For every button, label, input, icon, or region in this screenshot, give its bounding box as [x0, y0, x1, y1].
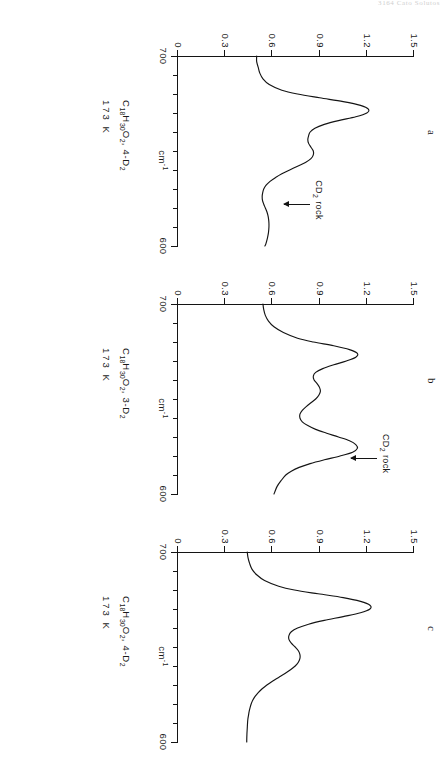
spectrum-trace-panel-c — [247, 552, 371, 742]
x-major-tick — [171, 56, 178, 57]
x-minor-tick — [173, 704, 178, 705]
x-minor-tick — [173, 628, 178, 629]
y-tick-label: 1.2 — [361, 530, 372, 544]
panel-b: b 1.51.20.90.60.30 700600cm-1 C18H30O2, … — [30, 262, 422, 498]
x-minor-tick — [173, 151, 178, 152]
panel-b-annotation-cd2-rock: CD2 rock — [379, 434, 391, 474]
x-minor-tick — [173, 170, 178, 171]
y-tick-label: 0.6 — [267, 282, 278, 296]
x-minor-tick — [173, 94, 178, 95]
x-minor-tick — [173, 342, 178, 343]
y-tick-label: 0 — [173, 290, 184, 296]
x-minor-tick — [173, 189, 178, 190]
y-tick-label: 0 — [173, 42, 184, 48]
y-tick-label: 0.9 — [314, 34, 325, 48]
y-tick-label: 0 — [173, 538, 184, 544]
y-tick-label: 1.5 — [409, 530, 420, 544]
x-minor-tick — [173, 456, 178, 457]
x-minor-tick — [173, 475, 178, 476]
panel-letter-c: c — [426, 626, 438, 631]
x-minor-tick — [173, 437, 178, 438]
panel-a-temperature: 173 K — [98, 100, 114, 171]
panel-b-temperature: 173 K — [98, 348, 114, 419]
plot-area-panel-a — [178, 56, 414, 246]
x-axis-title: cm-1 — [157, 398, 169, 419]
x-tick-label: 600 — [158, 485, 169, 502]
panel-a: a 1.51.20.90.60.30 700600cm-1 C18H30O2, … — [30, 14, 422, 250]
y-tick-label: 0.3 — [220, 530, 231, 544]
x-axis-panel-a: 700600cm-1 — [177, 56, 178, 246]
x-major-tick — [171, 742, 178, 743]
plot-area-panel-c — [178, 552, 414, 742]
panel-letter-b: b — [426, 378, 438, 384]
panel-a-formula: C18H30O2, 4-D2 — [121, 100, 132, 171]
x-major-tick — [171, 304, 178, 305]
y-tick-label: 0.3 — [220, 34, 231, 48]
panel-c-temperature: 173 K — [98, 596, 114, 667]
x-minor-tick — [173, 571, 178, 572]
trace-svg-panel-a — [178, 56, 414, 246]
x-major-tick — [171, 552, 178, 553]
panel-letter-a: a — [426, 130, 438, 135]
x-minor-tick — [173, 113, 178, 114]
y-tick-label: 1.5 — [409, 34, 420, 48]
x-axis-title: cm-1 — [157, 150, 169, 171]
spectrum-trace-panel-b — [263, 304, 358, 494]
trace-svg-panel-c — [178, 552, 414, 742]
panel-a-caption: C18H30O2, 4-D2 173 K — [98, 100, 134, 171]
x-minor-tick — [173, 361, 178, 362]
x-tick-label: 600 — [158, 237, 169, 254]
x-minor-tick — [173, 75, 178, 76]
panel-a-annotation-cd2-rock: CD2 rock — [312, 180, 324, 220]
x-axis-panel-b: 700600cm-1 — [177, 304, 178, 494]
panel-c-caption: C18H30O2, 4-D2 173 K — [98, 596, 134, 667]
y-tick-label: 0.9 — [314, 282, 325, 296]
panel-a-annotation-arrow — [284, 204, 310, 205]
x-major-tick — [171, 494, 178, 495]
panel-b-formula: C18H30O2, 3-D2 — [121, 348, 132, 419]
x-minor-tick — [173, 227, 178, 228]
panel-c-formula: C18H30O2, 4-D2 — [121, 596, 132, 667]
x-minor-tick — [173, 647, 178, 648]
y-tick-label: 0.3 — [220, 282, 231, 296]
x-tick-label: 700 — [158, 47, 169, 64]
figure-three-panel-ir-spectra: a 1.51.20.90.60.30 700600cm-1 C18H30O2, … — [0, 0, 448, 762]
x-minor-tick — [173, 590, 178, 591]
x-minor-tick — [173, 723, 178, 724]
y-tick-label: 1.5 — [409, 282, 420, 296]
x-minor-tick — [173, 685, 178, 686]
panel-b-annotation-arrow — [351, 458, 377, 459]
x-major-tick — [171, 246, 178, 247]
x-minor-tick — [173, 399, 178, 400]
x-axis-title: cm-1 — [157, 646, 169, 667]
y-tick-label: 0.9 — [314, 530, 325, 544]
y-tick-label: 1.2 — [361, 34, 372, 48]
x-axis-panel-c: 700600cm-1 — [177, 552, 178, 742]
x-tick-label: 700 — [158, 295, 169, 312]
x-minor-tick — [173, 418, 178, 419]
x-minor-tick — [173, 609, 178, 610]
y-tick-label: 0.6 — [267, 34, 278, 48]
x-tick-label: 700 — [158, 543, 169, 560]
rotated-figure-stage: a 1.51.20.90.60.30 700600cm-1 C18H30O2, … — [0, 0, 448, 762]
y-tick-label: 1.2 — [361, 282, 372, 296]
panel-b-caption: C18H30O2, 3-D2 173 K — [98, 348, 134, 419]
x-minor-tick — [173, 666, 178, 667]
x-minor-tick — [173, 132, 178, 133]
x-minor-tick — [173, 380, 178, 381]
panel-c: c 1.51.20.90.60.30 700600cm-1 C18H30O2, … — [30, 510, 422, 746]
x-minor-tick — [173, 208, 178, 209]
y-tick-label: 0.6 — [267, 530, 278, 544]
x-tick-label: 600 — [158, 733, 169, 750]
x-minor-tick — [173, 323, 178, 324]
